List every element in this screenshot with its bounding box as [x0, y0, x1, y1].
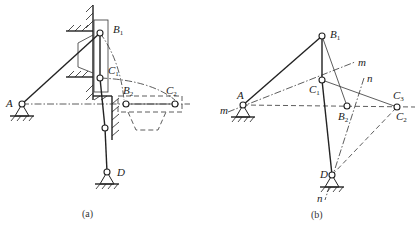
label-C1: C1 — [309, 83, 320, 97]
label-D: D — [319, 168, 328, 180]
caption-b: (b) — [311, 209, 323, 221]
rocker-C1D — [322, 80, 332, 175]
joint-A — [19, 101, 25, 107]
link-B1B2 — [322, 36, 347, 106]
crank-AB1 — [22, 33, 100, 104]
link-C1-E — [100, 78, 105, 128]
joint-C1 — [97, 75, 103, 81]
joint-D — [104, 169, 110, 175]
label-B2: B2 — [338, 110, 349, 124]
label-n-bottom: n — [317, 192, 323, 204]
mechanism-diagram: A B1 C1 B2 C2 D (a) — [0, 0, 417, 227]
label-C2: C2 — [396, 110, 407, 124]
joint-C2 — [172, 101, 178, 107]
caption-a: (a) — [82, 208, 93, 220]
figure-a: A B1 C1 B2 C2 D (a) — [5, 5, 190, 220]
label-A: A — [236, 89, 244, 101]
label-C1: C1 — [108, 64, 119, 78]
label-B2: B2 — [123, 84, 134, 98]
joint-B2 — [344, 103, 350, 109]
joint-B2 — [123, 101, 129, 107]
joint-B1 — [97, 30, 103, 36]
label-m-left: m — [220, 104, 228, 116]
label-B1: B1 — [113, 23, 124, 37]
joint-A — [240, 102, 246, 108]
label-C3: C3 — [393, 89, 404, 103]
label-m-right: m — [358, 56, 366, 68]
joint-D — [329, 172, 335, 178]
joint-E — [102, 125, 108, 131]
label-C2: C2 — [166, 84, 177, 98]
link-C1C3 — [322, 80, 397, 107]
rocker-D — [105, 128, 107, 172]
trapezoid-position-2 — [128, 112, 166, 130]
figure-b: A m m n n B1 C1 B2 C3 C2 D (b) — [220, 28, 415, 221]
joint-C1 — [319, 77, 325, 83]
label-D: D — [116, 166, 125, 178]
line-m — [228, 62, 355, 112]
label-A: A — [5, 97, 13, 109]
joint-B1 — [319, 33, 325, 39]
label-n-top: n — [367, 72, 373, 84]
label-B1: B1 — [330, 28, 341, 42]
